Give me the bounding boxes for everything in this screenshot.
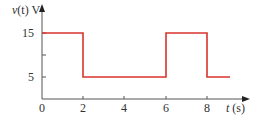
x-axis-label: t (s) [226, 101, 245, 115]
y-tick-label-15: 15 [22, 26, 34, 40]
chart: 15 5 0 2 4 6 8 v(t) V t (s) [0, 0, 255, 118]
x-tick-label-2: 2 [80, 101, 86, 115]
y-axis-rest: (t) V [17, 3, 40, 17]
x-tick-label-6: 6 [163, 101, 169, 115]
x-tick-label-8: 8 [204, 101, 210, 115]
signal-line [42, 33, 230, 77]
x-tick-label-0: 0 [39, 101, 45, 115]
x-axis-rest: (s) [229, 101, 245, 115]
x-tick-label-4: 4 [121, 101, 127, 115]
y-tick-label-5: 5 [28, 70, 34, 84]
y-axis-label: v(t) V [12, 3, 40, 17]
